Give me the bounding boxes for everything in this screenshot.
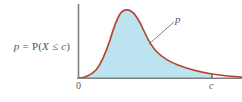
probability-density-figure: p = P(X ≤ c) 0 c p <box>0 0 242 102</box>
x-axis-bound-label: c <box>209 80 213 91</box>
curve-label-p: p <box>175 13 181 25</box>
equation-random-variable: X <box>42 40 49 52</box>
equation-close-paren: ) <box>66 40 70 52</box>
probability-equation-label: p = P(X ≤ c) <box>8 40 76 52</box>
x-axis-origin-label: 0 <box>76 80 81 91</box>
curve-label-leader-line <box>149 22 174 44</box>
